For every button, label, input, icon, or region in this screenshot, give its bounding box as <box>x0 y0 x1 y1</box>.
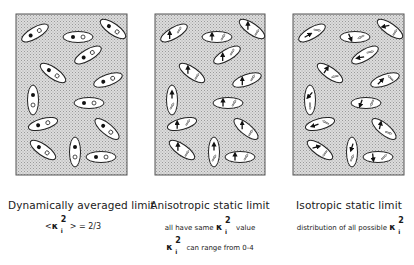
kappa-sup: 2 <box>398 216 404 225</box>
dipole-pair <box>347 137 358 167</box>
dipole-pair <box>28 85 39 115</box>
dipole-pair <box>213 98 243 109</box>
panel-3-title: Isotropic static limit <box>290 199 408 211</box>
dipole-pair <box>363 152 393 163</box>
dipole-pair <box>225 152 255 163</box>
dipole-pair <box>209 137 220 167</box>
panel-anisotropic <box>155 14 267 175</box>
panel-2-line-1: all have same κ2i value <box>150 222 270 232</box>
formula-open: < <box>45 222 52 231</box>
kappa-symbol: κ <box>166 242 172 252</box>
panel-isotropic <box>293 14 405 175</box>
panel-dynamic <box>16 14 128 175</box>
kappa-sub: i <box>398 228 400 235</box>
dipole-pair <box>202 32 232 43</box>
orientation-diagram <box>0 0 414 190</box>
dipole-pair <box>340 32 370 43</box>
text: can range from 0-4 <box>186 244 253 252</box>
dipole-pair <box>167 85 178 115</box>
kappa-symbol: κ <box>52 221 58 231</box>
kappa-sub: i <box>225 228 227 235</box>
dipole-pair <box>305 85 316 115</box>
kappa-sup: 2 <box>61 215 67 224</box>
kappa-sup: 2 <box>225 216 231 225</box>
panel-3-line-1: distribution of all possible κ2i <box>290 222 414 232</box>
dipole-pair <box>74 98 104 109</box>
panel-1-title: Dynamically averaged limit <box>8 199 138 211</box>
kappa-symbol: κ <box>216 222 222 232</box>
text: all have same <box>165 224 214 232</box>
kappa-sub: i <box>175 248 177 255</box>
kappa-symbol: κ <box>389 222 395 232</box>
dipole-pair <box>70 137 81 167</box>
dipole-pair <box>351 98 381 109</box>
panel-2-line-2: κ2i can range from 0-4 <box>150 242 270 252</box>
dipole-pair <box>86 152 116 163</box>
text: value <box>236 224 255 232</box>
panel-1-formula: <κ2i> = 2/3 <box>8 221 138 231</box>
kappa-sub: i <box>61 227 63 234</box>
kappa-sup: 2 <box>175 236 181 245</box>
panel-2-title: Anisotropic static limit <box>150 199 270 211</box>
text: distribution of all possible <box>297 224 387 232</box>
dipole-pair <box>63 32 93 43</box>
formula-value: > = 2/3 <box>70 222 101 231</box>
